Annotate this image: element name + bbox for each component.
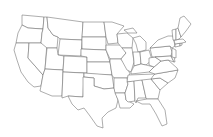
state-nj: [172, 48, 176, 58]
state-wy: [58, 39, 82, 56]
state-ny: [150, 36, 175, 48]
state-co: [63, 56, 87, 73]
state-ks: [87, 62, 112, 75]
us-states-map: [0, 0, 213, 137]
state-fl: [136, 99, 167, 126]
state-me: [178, 16, 191, 37]
state-nm: [62, 72, 84, 98]
state-in: [133, 52, 141, 66]
state-sd: [82, 37, 106, 50]
state-nd: [82, 22, 106, 37]
state-shapes: [14, 15, 191, 128]
state-vt: [172, 29, 176, 40]
state-az: [40, 69, 63, 96]
